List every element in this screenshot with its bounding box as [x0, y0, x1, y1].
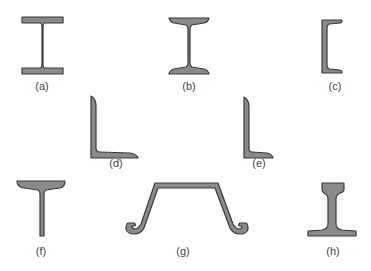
tee-shape: [17, 181, 65, 236]
section-label-g: (g): [176, 245, 189, 257]
section-label-b: (b): [182, 80, 195, 92]
channel-shape: [322, 20, 342, 73]
s-shape-i-beam-shape: [169, 18, 209, 74]
section-label-a: (a): [35, 80, 48, 92]
section-label-f: (f): [36, 245, 46, 257]
section-label-h: (h): [326, 245, 339, 257]
sections-drawing: [0, 0, 371, 271]
wide-flange-i-beam-shape: [22, 17, 63, 74]
section-label-e: (e): [252, 157, 265, 169]
angle-unequal-leg-shape: [244, 97, 273, 158]
angle-equal-leg-shape: [91, 96, 138, 158]
section-label-d: (d): [109, 157, 122, 169]
section-label-c: (c): [329, 80, 342, 92]
rail-shape: [308, 183, 356, 236]
sheet-pile-shape: [126, 183, 248, 234]
